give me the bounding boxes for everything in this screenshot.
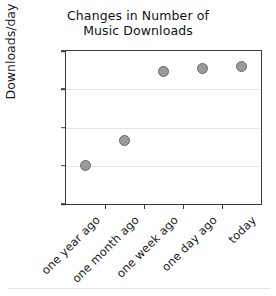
bottom-divider — [8, 288, 270, 289]
y-tick-mark — [61, 203, 66, 205]
plot-area: 015304560 one year agoone month agoone w… — [65, 50, 262, 205]
chart-title-line-2: Music Downloads — [0, 23, 276, 38]
data-point — [80, 160, 91, 171]
chart-title: Changes in Number of Music Downloads — [0, 8, 276, 38]
y-tick-mark — [61, 127, 66, 129]
data-point — [236, 61, 247, 72]
y-axis-label: Downloads/day — [3, 0, 18, 122]
data-point — [158, 66, 169, 77]
chart-title-line-1: Changes in Number of — [0, 8, 276, 23]
y-tick-mark — [61, 88, 66, 90]
x-tick-label: today — [226, 213, 259, 246]
gridline — [66, 89, 261, 90]
chart-figure: Changes in Number of Music Downloads 015… — [0, 0, 276, 296]
gridline — [66, 166, 261, 167]
x-tick-mark — [183, 204, 184, 209]
y-tick-mark — [61, 165, 66, 167]
x-tick-mark — [222, 204, 223, 209]
x-tick-mark — [144, 204, 145, 209]
data-point — [119, 135, 130, 146]
x-tick-mark — [105, 204, 106, 209]
gridline — [66, 128, 261, 129]
y-tick-mark — [61, 50, 66, 52]
data-point — [197, 63, 208, 74]
